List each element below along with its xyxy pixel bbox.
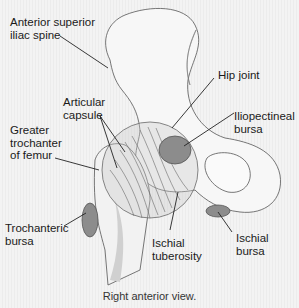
- label-articular-capsule: Articular capsule: [63, 96, 105, 121]
- trochanteric-bursa: [82, 203, 98, 237]
- figure-caption: Right anterior view.: [0, 290, 299, 302]
- label-iliopectineal-bursa: Iliopectineal bursa: [234, 110, 295, 135]
- ischial-bursa: [206, 205, 230, 217]
- label-trochanteric-bursa: Trochanteric bursa: [5, 222, 69, 247]
- label-hip-joint: Hip joint: [218, 69, 260, 82]
- iliopectineal-bursa: [159, 136, 191, 164]
- label-anterior-superior-iliac-spine: Anterior superior iliac spine: [10, 16, 95, 41]
- label-ischial-bursa: Ischial bursa: [236, 232, 269, 257]
- label-ischial-tuberosity: Ischial tuberosity: [152, 237, 202, 262]
- hip-joint-circle: [102, 122, 198, 218]
- label-greater-trochanter: Greater trochanter of femur: [10, 124, 62, 162]
